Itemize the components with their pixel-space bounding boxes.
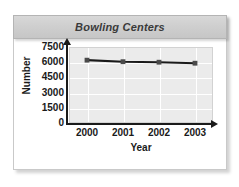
x-tick-label: 2002: [139, 127, 179, 138]
page-title: Bowling Centers: [75, 21, 165, 33]
y-axis-title: Number: [21, 46, 32, 106]
x-axis-title: Year: [69, 142, 213, 153]
x-tick-label: 2000: [67, 127, 107, 138]
data-point-marker: [193, 61, 198, 66]
data-point-marker: [85, 58, 90, 63]
x-axis-line: [66, 123, 212, 125]
x-tick-label: 2003: [175, 127, 215, 138]
data-point-marker: [157, 60, 162, 65]
y-axis-arrow-icon: [63, 38, 71, 45]
data-line: [87, 60, 195, 63]
series-line-bowling-centers: [69, 47, 213, 123]
y-axis-line: [66, 44, 68, 125]
chart-figure: Bowling Centers 7500 6000 4500 3000 1500…: [0, 0, 239, 187]
x-tick-label: 2001: [103, 127, 143, 138]
data-point-marker: [121, 59, 126, 64]
y-tick-label: 0: [24, 118, 64, 128]
